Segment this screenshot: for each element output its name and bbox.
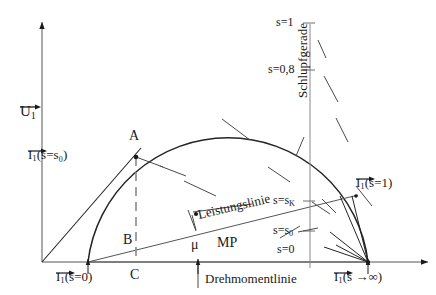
leader-right-2 [324,76,338,102]
slip-tick-label-s08: s=0,8 [268,63,294,75]
dot-s-one [354,194,358,198]
leader-a [136,157,163,167]
slip-tick-label-s1: s=1 [276,16,293,28]
label-point-mu: μ [191,238,199,252]
label-point-b: B [123,233,132,247]
ray-fan-s-infinity [324,196,368,262]
circle-diagram-figure: U1 I1(s=s₀) I1(s=0) [0,0,436,295]
slip-tick-label-sk: s=sK [273,194,295,208]
label-slip-line: Schlupfgerade [296,23,309,98]
label-current-s-zero: I1(s=0) [56,270,92,285]
leader-right-1 [318,40,326,58]
y-axis-label: U1 [20,104,36,121]
slip-s0-main: s=s [273,223,289,237]
dot-point-a [134,155,139,160]
leader-mid-2 [184,181,216,196]
label-current-s-infinity: I1(s →∞) [334,270,382,285]
slip-sk-sub: K [289,199,295,208]
y-axis-subscript: 1 [31,110,36,121]
dot-s-inf [366,260,370,264]
slip-sk-main: s=s [273,193,289,207]
label-point-c: C [130,268,139,282]
slip-s0-sub: 0 [289,229,293,238]
label-current-s-s0: I1(s=s₀) [28,148,67,163]
leader-right-3 [336,118,348,142]
leader-right-4 [296,137,304,156]
label-point-a: A [129,129,139,143]
leader-mid-1 [160,166,186,176]
leader-top [222,119,250,140]
leader-mid-3 [268,167,290,182]
label-current-s-one: I1(s=1) [356,176,392,191]
label-point-mp: MP [217,236,237,250]
label-torque-line: Drehmomentlinie [205,272,297,285]
slip-tick-label-szero: s=0 [277,243,294,255]
slip-tick-label-s0: s=s0 [273,224,293,238]
